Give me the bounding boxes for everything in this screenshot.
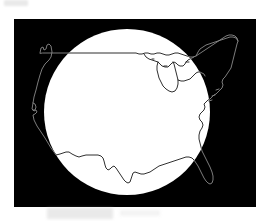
figure-root: Contiguous United States outline over a …	[0, 0, 267, 221]
us-map-figure: Contiguous United States outline over a …	[0, 0, 267, 221]
white-circle	[44, 29, 210, 195]
